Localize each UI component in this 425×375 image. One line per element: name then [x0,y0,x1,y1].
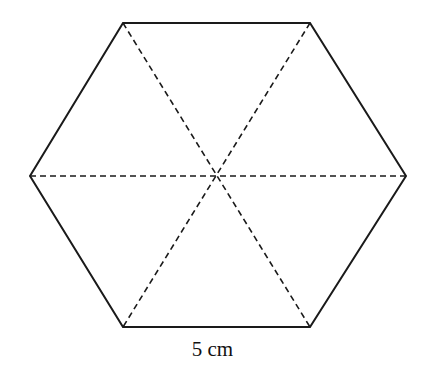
hexagon-diagram [0,0,425,375]
dashed-diagonals [30,23,406,327]
side-length-label: 5 cm [0,337,425,362]
hexagon-outline [30,23,406,327]
